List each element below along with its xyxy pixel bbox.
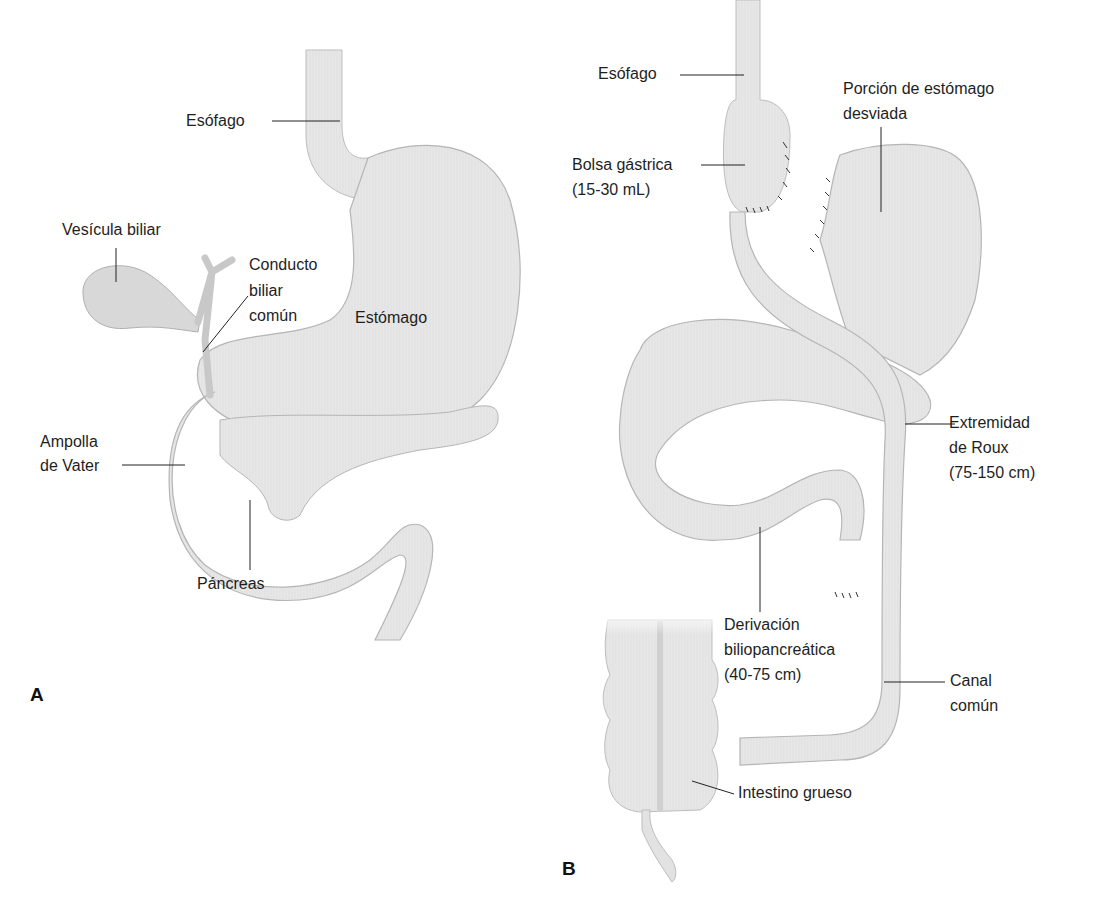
label-roux-limb-2: de Roux — [949, 438, 1009, 458]
esophagus-b — [723, 0, 790, 212]
label-common-channel-1: Canal — [950, 671, 992, 691]
gallbladder-a — [83, 266, 200, 332]
label-esophagus-a: Esófago — [186, 111, 245, 131]
label-gastric-pouch-2: (15-30 mL) — [572, 180, 650, 200]
appendix-b — [642, 810, 676, 882]
panel-a-artwork — [83, 50, 520, 640]
label-roux-limb-3: (75-150 cm) — [949, 463, 1035, 483]
label-biliopancreatic-1: Derivación — [724, 615, 800, 635]
label-esophagus-b: Esófago — [598, 64, 657, 84]
label-biliopancreatic-3: (40-75 cm) — [724, 665, 801, 685]
label-large-intestine: Intestino grueso — [738, 783, 852, 803]
stomach-a — [198, 145, 521, 440]
label-stomach: Estómago — [355, 308, 427, 328]
label-ampulla-vater-1: Ampolla — [40, 432, 98, 452]
diagram-artwork — [0, 0, 1097, 898]
label-biliopancreatic-2: biliopancreática — [724, 640, 835, 660]
label-gallbladder: Vesícula biliar — [62, 220, 161, 240]
panel-letter-a: A — [30, 684, 44, 706]
label-ampulla-vater-2: de Vater — [40, 456, 99, 476]
label-bypassed-stomach-1: Porción de estómago — [843, 79, 994, 99]
label-common-channel-2: común — [950, 696, 998, 716]
label-bypassed-stomach-2: desviada — [843, 104, 907, 124]
panel-letter-b: B — [562, 858, 576, 880]
label-common-bile-duct-1: Conducto — [249, 255, 318, 275]
label-roux-limb-1: Extremidad — [949, 413, 1030, 433]
label-pancreas: Páncreas — [197, 574, 265, 594]
pancreas-a — [220, 406, 498, 520]
label-common-bile-duct-2: biliar — [249, 281, 283, 301]
panel-b-artwork — [600, 0, 981, 882]
label-common-bile-duct-3: común — [249, 306, 297, 326]
label-gastric-pouch-1: Bolsa gástrica — [572, 155, 673, 175]
